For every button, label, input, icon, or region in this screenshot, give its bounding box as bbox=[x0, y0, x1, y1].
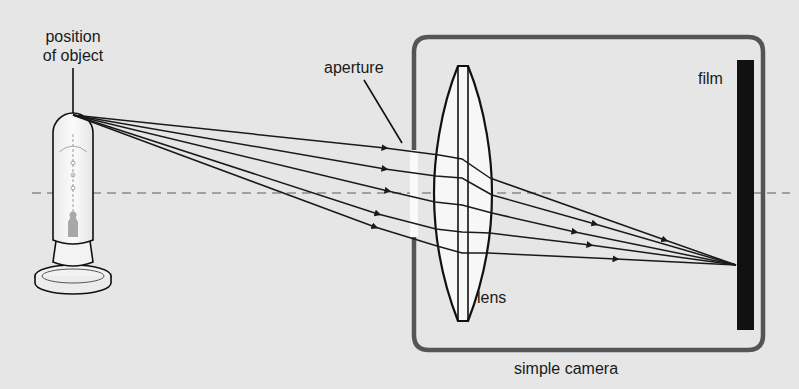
light-bulb-object bbox=[35, 113, 111, 294]
label-object-line1: position bbox=[30, 27, 116, 46]
label-film: film bbox=[698, 69, 723, 88]
label-position-of-object: position of object bbox=[30, 27, 116, 65]
camera-optics-diagram: position of object aperture lens film si… bbox=[0, 0, 799, 389]
label-simple-camera: simple camera bbox=[514, 359, 618, 378]
label-object-line2: of object bbox=[30, 46, 116, 65]
diagram-canvas bbox=[0, 0, 799, 389]
aperture-pointer-line bbox=[364, 80, 402, 143]
label-aperture: aperture bbox=[324, 58, 384, 77]
label-lens: lens bbox=[477, 288, 506, 307]
light-rays bbox=[73, 115, 736, 265]
film bbox=[737, 60, 754, 330]
convex-lens bbox=[434, 66, 492, 321]
